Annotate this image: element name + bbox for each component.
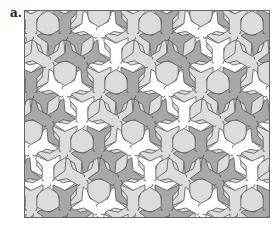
- tessellation-figure: [24, 10, 270, 218]
- panel-label: a.: [10, 6, 22, 20]
- tessellation-svg: [24, 10, 270, 218]
